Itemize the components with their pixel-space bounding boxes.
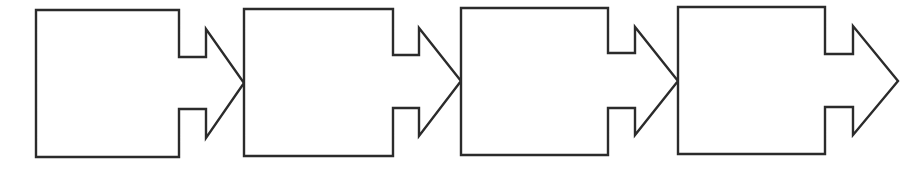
step-1-arrow-box — [36, 10, 244, 157]
step-2-arrow-box — [244, 9, 461, 156]
step-2 — [244, 9, 461, 156]
step-3 — [461, 8, 678, 155]
diagram-svg — [0, 0, 913, 172]
step-4 — [678, 7, 898, 154]
step-4-arrow-box — [678, 7, 898, 154]
step-3-arrow-box — [461, 8, 678, 155]
process-flow-diagram — [0, 0, 913, 172]
step-1 — [36, 10, 244, 157]
